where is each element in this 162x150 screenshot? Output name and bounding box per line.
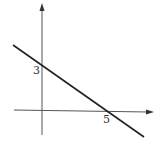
- x-intercept-label: 5: [103, 114, 110, 125]
- y-axis: [40, 3, 45, 135]
- y-axis-arrow-icon: [40, 3, 45, 11]
- y-intercept-label: 3: [33, 65, 40, 76]
- x-axis-arrow-icon: [146, 110, 154, 115]
- graph-canvas: [0, 0, 162, 150]
- function-line: [13, 45, 144, 137]
- x-axis: [14, 110, 154, 115]
